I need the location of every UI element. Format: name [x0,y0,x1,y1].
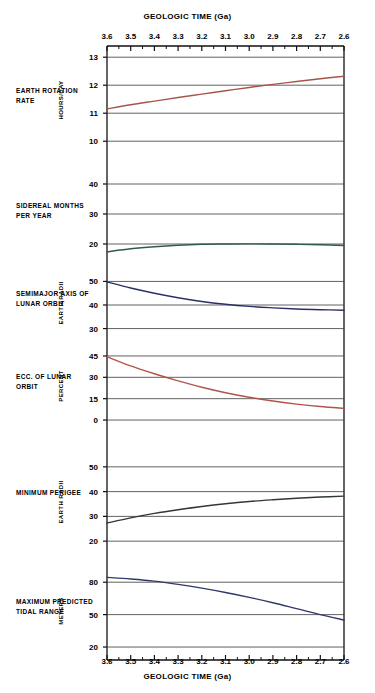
y-tick-label: 20 [76,537,98,546]
x-tick-label: 2.6 [338,32,349,41]
x-tick-label: 2.9 [267,657,278,666]
y-tick-label: 30 [76,512,98,521]
x-tick-label: 3.6 [101,657,112,666]
series-line-ecc-of-lunar-orbit [107,357,344,409]
x-tick-label: 2.8 [291,657,302,666]
x-tick-label: 3.6 [101,32,112,41]
x-tick-label: 3.3 [173,32,184,41]
y-tick-label: 12 [76,81,98,90]
unit-label-ecc-of-lunar-orbit: PERCENT [58,356,64,416]
geologic-time-multi-panel-chart: GEOLOGIC TIME (Ga) 3.63.53.43.33.23.13.0… [0,0,375,693]
y-tick-label: 50 [76,277,98,286]
bottom-x-tick-labels: 3.63.53.43.33.23.13.02.92.82.72.6 [0,657,375,669]
x-tick-label: 3.4 [149,657,160,666]
series-line-minimum-perigee [107,496,344,523]
series-line-sidereal-months-per-year [107,244,344,252]
bottom-axis-title: GEOLOGIC TIME (Ga) [0,672,375,681]
series-line-maximum-predicted-tidal-range [107,577,344,620]
series-line-semimajor-axis-of-lunar-orbit [107,282,344,310]
unit-label-earth-rotation-rate: HOURS/DAY [58,70,64,130]
x-tick-label: 3.1 [220,32,231,41]
x-tick-label: 2.7 [315,32,326,41]
y-tick-label: 13 [76,53,98,62]
x-tick-label: 3.2 [196,32,207,41]
series-line-earth-rotation-rate [107,76,344,109]
x-tick-label: 2.6 [338,657,349,666]
x-tick-label: 3.2 [196,657,207,666]
y-tick-label: 50 [76,462,98,471]
y-tick-label: 40 [76,180,98,189]
y-tick-label: 30 [76,210,98,219]
y-tick-label: 15 [76,394,98,403]
y-tick-label: 30 [76,324,98,333]
x-tick-label: 3.5 [125,657,136,666]
x-tick-label: 3.0 [244,32,255,41]
x-tick-label: 3.5 [125,32,136,41]
x-tick-label: 2.8 [291,32,302,41]
y-tick-label: 40 [76,301,98,310]
y-tick-label: 40 [76,487,98,496]
y-tick-label: 10 [76,137,98,146]
unit-label-maximum-predicted-tidal-range: METERS [58,581,64,641]
y-tick-label: 50 [76,610,98,619]
x-tick-label: 3.4 [149,32,160,41]
x-tick-label: 2.7 [315,657,326,666]
unit-label-minimum-perigee: EARTH RADII [58,472,64,532]
y-tick-label: 30 [76,373,98,382]
x-tick-label: 2.9 [267,32,278,41]
y-tick-label: 11 [76,109,98,118]
y-tick-label: 0 [76,416,98,425]
y-tick-label: 20 [76,643,98,652]
top-x-tick-labels: 3.63.53.43.33.23.13.02.92.82.72.6 [0,32,375,44]
x-tick-label: 3.1 [220,657,231,666]
x-tick-label: 3.0 [244,657,255,666]
y-tick-label: 20 [76,240,98,249]
x-tick-label: 3.3 [173,657,184,666]
unit-label-semimajor-axis-of-lunar-orbit: EARTH RADII [58,273,64,333]
top-axis-title: GEOLOGIC TIME (Ga) [0,12,375,21]
y-tick-label: 45 [76,351,98,360]
y-tick-label: 80 [76,578,98,587]
